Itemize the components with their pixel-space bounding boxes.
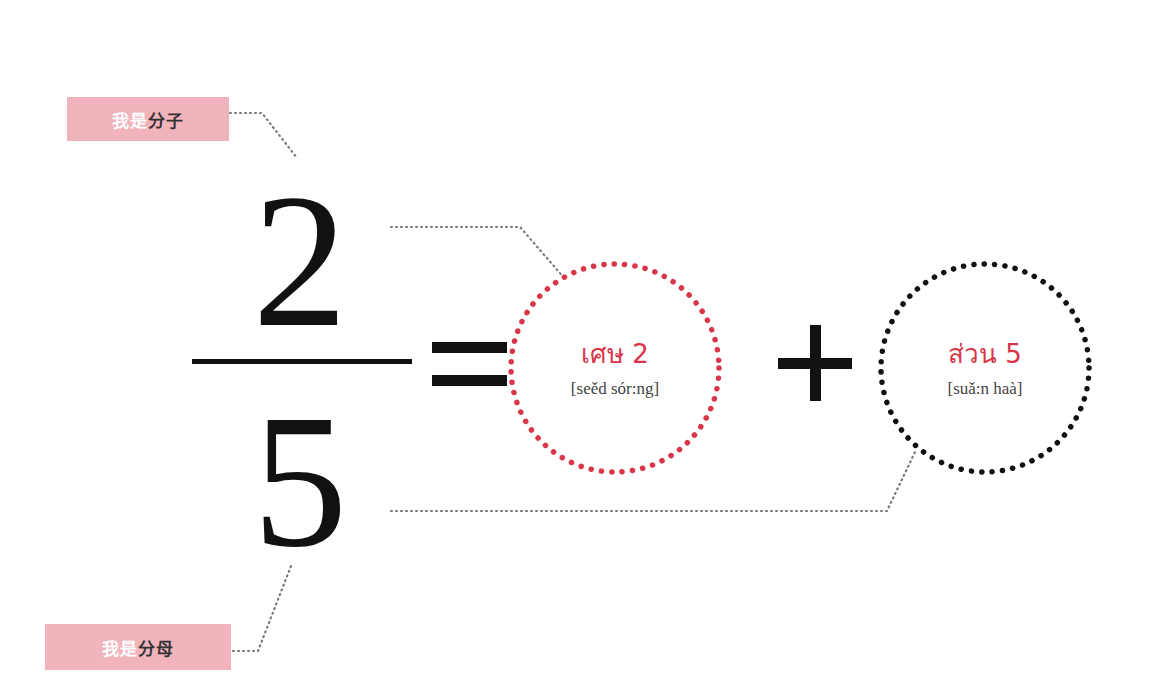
fraction-bar xyxy=(192,359,412,364)
label-prefix: 我是 xyxy=(102,635,138,660)
fraction-denominator: 5 xyxy=(230,386,370,576)
denominator-romanization: [suǎ:n haà] xyxy=(947,379,1022,399)
label-prefix: 我是 xyxy=(112,107,148,132)
numerator-thai-term: เศษ 2 xyxy=(581,341,649,367)
label-term: 分母 xyxy=(138,635,174,660)
plus-bar-vertical xyxy=(810,325,821,401)
equals-bar-bottom xyxy=(432,375,507,386)
denominator-label: 我是分母 xyxy=(45,624,231,670)
denominator-thai-term: ส่วน 5 xyxy=(948,341,1022,367)
connector-numerator-label xyxy=(230,113,297,158)
fraction-numerator: 2 xyxy=(230,166,370,356)
equals-bar-top xyxy=(432,342,507,353)
numerator-label: 我是分子 xyxy=(67,97,229,141)
denominator-circle: ส่วน 5 [suǎ:n haà] xyxy=(878,261,1092,475)
label-term: 分子 xyxy=(148,107,184,132)
numerator-romanization: [seěd sór:ng] xyxy=(571,379,659,399)
numerator-circle: เศษ 2 [seěd sór:ng] xyxy=(508,261,722,475)
